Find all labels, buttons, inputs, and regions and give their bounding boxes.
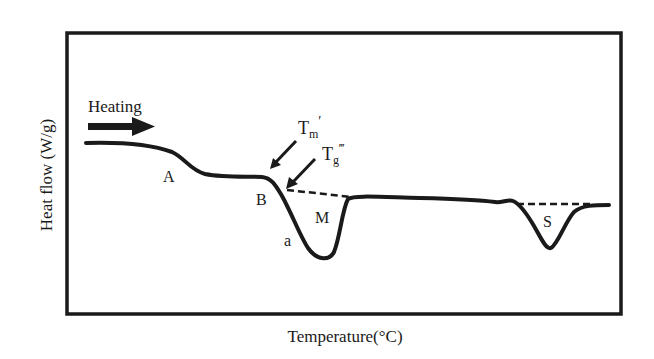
plot-frame [67, 33, 621, 314]
tm-arrow-icon [270, 141, 296, 169]
y-axis-label: Heat flow (W/g) [37, 119, 56, 231]
heating-label: Heating [88, 97, 142, 116]
tm-label: Tm′ [298, 114, 321, 141]
x-axis-label: Temperature(°C) [287, 327, 402, 346]
dsc-curve [86, 143, 609, 259]
tg-label: Tg‴ [322, 140, 345, 167]
label-a: a [284, 232, 291, 249]
baseline-M [287, 190, 352, 197]
label-M: M [315, 209, 329, 226]
tg-arrow-icon [286, 159, 315, 189]
label-S: S [543, 213, 552, 230]
heating-arrow-icon [88, 117, 155, 136]
dsc-diagram: Heat flow (W/g) Temperature(°C) Heating … [0, 0, 654, 359]
label-B: B [256, 191, 267, 208]
label-A: A [163, 168, 175, 185]
